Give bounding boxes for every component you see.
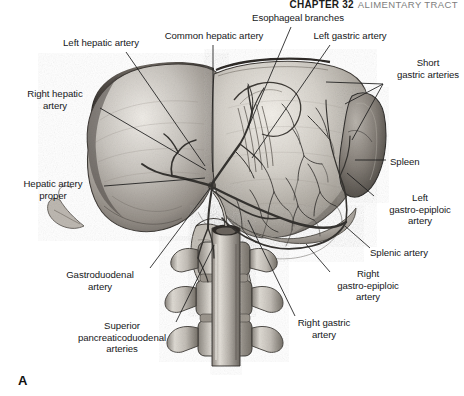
label-left-gastric-artery: Left gastric artery [298,30,402,42]
running-head: CHAPTER 32ALIMENTARY TRACT [290,0,458,10]
label-right-gastro-epiploic-artery: Right gastro-epiploic artery [326,268,410,303]
figure-letter: A [18,373,27,388]
label-left-gastro-epiploic-artery: Left gastro-epiploic artery [378,192,462,227]
label-left-hepatic-artery: Left hepatic artery [49,37,153,49]
label-hepatic-artery-proper: Hepatic artery proper [8,178,98,201]
figure-page: CHAPTER 32ALIMENTARY TRACT Esophageal br… [0,0,464,396]
label-superior-pancreaticoduodenal-arteries: Superior pancreaticoduodenal arteries [64,320,180,355]
running-head-chapter-number: CHAPTER 32 [290,0,354,10]
label-splenic-artery: Splenic artery [370,247,458,259]
leader-splenic-artery [345,226,370,248]
label-spleen: Spleen [390,156,450,168]
label-right-hepatic-artery: Right hepatic artery [12,88,98,111]
label-right-gastric-artery: Right gastric artery [284,317,364,340]
label-esophageal-branches: Esophageal branches [238,12,358,24]
label-common-hepatic-artery: Common hepatic artery [152,30,276,42]
label-gastroduodenal-artery: Gastroduodenal artery [51,269,149,292]
running-head-chapter-title: ALIMENTARY TRACT [358,0,458,10]
label-short-gastric-arteries: Short gastric arteries [392,57,464,80]
